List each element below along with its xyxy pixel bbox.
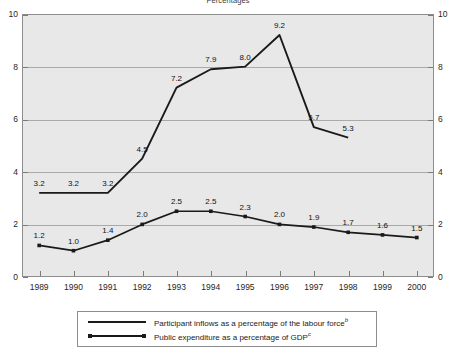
series-marker	[346, 230, 350, 234]
data-label: 1.6	[377, 222, 388, 230]
series-marker	[243, 215, 247, 219]
data-label: 7.2	[171, 75, 182, 83]
data-label: 2.0	[137, 211, 148, 219]
y-axis-label-right: 8	[438, 63, 456, 72]
x-axis-label: 1991	[91, 283, 125, 292]
data-label: 2.5	[205, 198, 216, 206]
data-label: 2.5	[171, 198, 182, 206]
data-label: 3.2	[102, 180, 113, 188]
series-marker	[37, 244, 41, 248]
y-axis-label-left: 2	[0, 220, 18, 229]
x-axis-label: 1989	[22, 283, 56, 292]
legend-label-participant-inflows: Participant inflows as a percentage of t…	[154, 317, 348, 328]
data-label: 9.2	[274, 22, 285, 30]
x-axis-label: 2000	[400, 283, 434, 292]
x-axis-label: 1990	[57, 283, 91, 292]
legend-line-swatch-square-marker	[86, 330, 148, 342]
data-label: 8.0	[240, 54, 251, 62]
series-marker	[415, 236, 419, 240]
legend-item-participant-inflows[interactable]: Participant inflows as a percentage of t…	[86, 316, 348, 328]
series-line-1	[39, 35, 348, 193]
y-axis-label-left: 0	[0, 273, 18, 282]
chart-title: Percentages	[0, 0, 456, 5]
chart-container: Percentages Participant inflows as a per…	[0, 0, 456, 353]
series-marker	[106, 238, 110, 242]
x-axis-label: 1995	[228, 283, 262, 292]
x-axis-label: 1993	[160, 283, 194, 292]
y-axis-label-left: 8	[0, 63, 18, 72]
data-label: 3.2	[34, 180, 45, 188]
legend-item-public-expenditure[interactable]: Public expenditure as a percentage of GD…	[86, 330, 311, 342]
series-marker	[175, 209, 179, 213]
y-axis-label-right: 2	[438, 220, 456, 229]
x-axis-label: 1996	[263, 283, 297, 292]
series-layer	[22, 14, 434, 277]
series-marker	[209, 209, 213, 213]
y-axis-label-right: 0	[438, 273, 456, 282]
y-axis-label-left: 4	[0, 168, 18, 177]
y-axis-label-left: 6	[0, 115, 18, 124]
series-marker	[72, 249, 76, 253]
series-marker	[381, 233, 385, 237]
series-marker	[140, 223, 144, 227]
data-label: 3.2	[68, 180, 79, 188]
x-axis-label: 1992	[125, 283, 159, 292]
data-label: 1.2	[34, 232, 45, 240]
series-marker	[312, 225, 316, 229]
data-label: 7.9	[205, 56, 216, 64]
y-axis-label-left: 10	[0, 10, 18, 19]
data-label: 1.4	[102, 227, 113, 235]
data-label: 4.5	[137, 146, 148, 154]
data-label: 1.5	[411, 225, 422, 233]
data-label: 2.3	[240, 204, 251, 212]
series-line-2	[39, 211, 417, 250]
data-label: 5.7	[308, 114, 319, 122]
y-axis-label-right: 6	[438, 115, 456, 124]
data-label: 5.3	[343, 125, 354, 133]
legend-label-public-expenditure: Public expenditure as a percentage of GD…	[154, 331, 311, 342]
x-axis-label: 1997	[297, 283, 331, 292]
data-label: 1.7	[343, 219, 354, 227]
data-label: 1.0	[68, 238, 79, 246]
y-axis-label-right: 4	[438, 168, 456, 177]
data-label: 2.0	[274, 211, 285, 219]
legend-line-swatch-plain	[86, 316, 148, 328]
data-label: 1.9	[308, 214, 319, 222]
legend: Participant inflows as a percentage of t…	[77, 311, 377, 347]
x-axis-label: 1999	[366, 283, 400, 292]
y-axis-tick-left	[23, 277, 28, 278]
x-axis-label: 1994	[194, 283, 228, 292]
series-marker	[278, 223, 282, 227]
x-axis-label: 1998	[331, 283, 365, 292]
y-axis-tick-right	[428, 277, 433, 278]
y-axis-label-right: 10	[438, 10, 456, 19]
